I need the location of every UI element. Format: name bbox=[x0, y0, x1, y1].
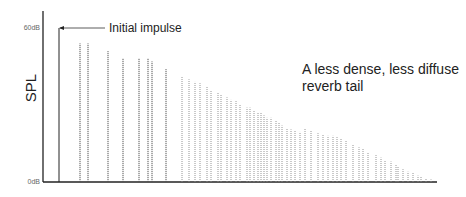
tail-annotation-line1: A less dense, less diffuse bbox=[302, 61, 459, 77]
arrow-head-icon bbox=[59, 26, 64, 30]
initial-impulse-label: Initial impulse bbox=[109, 21, 182, 35]
tail-annotation-line2: reverb tail bbox=[302, 78, 363, 94]
y-tick-60db: 60dB bbox=[24, 24, 41, 31]
y-tick-0db: 0dB bbox=[28, 178, 41, 185]
impulse-response-chart: 60dB 0dB SPL Initial impulse A less dens… bbox=[0, 0, 466, 197]
impulse-lines bbox=[59, 28, 431, 182]
y-axis-label: SPL bbox=[22, 74, 39, 102]
